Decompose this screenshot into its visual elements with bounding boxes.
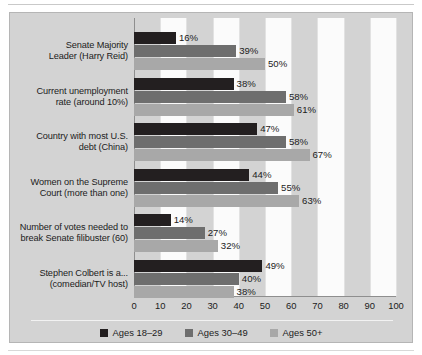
category-group: Country with most U.S.debt (China)47%58%… (10, 123, 412, 161)
category-label-line: Senate Majority (0, 40, 128, 51)
category-label-line: debt (China) (0, 142, 128, 153)
category-label-line: Country with most U.S. (0, 131, 128, 142)
category-label-line: break Senate filibuster (60) (0, 233, 128, 244)
bar (134, 32, 176, 44)
category-label: Senate MajorityLeader (Harry Reid) (0, 40, 128, 62)
bar-value-label: 27% (208, 227, 227, 239)
category-label: Country with most U.S.debt (China) (0, 131, 128, 153)
bar-value-label: 58% (289, 136, 308, 148)
bar (134, 91, 286, 103)
category-label-line: (comedian/TV host) (0, 279, 128, 290)
legend-label: Ages 30–49 (198, 327, 248, 338)
bar (134, 214, 171, 226)
bar (134, 182, 278, 194)
category-label-line: Number of votes needed to (0, 222, 128, 233)
bar-value-label: 40% (242, 273, 261, 285)
category-label-line: Women on the Supreme (0, 177, 128, 188)
legend-swatch-icon (100, 329, 108, 337)
category-group: Women on the SupremeCourt (more than one… (10, 169, 412, 207)
bar-value-label: 67% (313, 149, 332, 161)
bar (134, 195, 299, 207)
legend-item: Ages 50+ (270, 327, 323, 338)
bar-chart-figure: Senate MajorityLeader (Harry Reid)16%39%… (0, 0, 422, 355)
legend-divider (31, 320, 393, 321)
legend-label: Ages 18–29 (113, 327, 163, 338)
bar-value-label: 14% (174, 214, 193, 226)
x-tick-label: 70 (312, 300, 322, 311)
category-group: Number of votes needed tobreak Senate fi… (10, 214, 412, 252)
legend-item: Ages 18–29 (100, 327, 163, 338)
bar-value-label: 38% (237, 286, 256, 298)
category-label: Stephen Colbert is a...(comedian/TV host… (0, 268, 128, 290)
category-label-line: rate (around 10%) (0, 97, 128, 108)
bar-value-label: 58% (289, 91, 308, 103)
category-group: Senate MajorityLeader (Harry Reid)16%39%… (10, 32, 412, 70)
legend-label: Ages 50+ (283, 327, 323, 338)
bar (134, 273, 239, 285)
bar-value-label: 32% (221, 240, 240, 252)
x-tick-label: 10 (155, 300, 165, 311)
category-label-line: Court (more than one) (0, 188, 128, 199)
bar (134, 58, 265, 70)
bar (134, 149, 310, 161)
top-divider (8, 4, 414, 5)
bar (134, 78, 234, 90)
category-label-line: Current unemployment (0, 86, 128, 97)
category-label-line: Leader (Harry Reid) (0, 51, 128, 62)
x-tick-label: 50 (260, 300, 270, 311)
bar (134, 227, 205, 239)
category-label-line: Stephen Colbert is a... (0, 268, 128, 279)
chart-panel: Senate MajorityLeader (Harry Reid)16%39%… (9, 12, 413, 343)
bar-value-label: 63% (302, 195, 321, 207)
category-label: Women on the SupremeCourt (more than one… (0, 177, 128, 199)
bar (134, 123, 257, 135)
bar (134, 286, 234, 298)
bar (134, 45, 236, 57)
bottom-divider (8, 350, 414, 351)
bar-value-label: 39% (239, 45, 258, 57)
x-tick-label: 90 (365, 300, 375, 311)
bar (134, 240, 218, 252)
chart-legend: Ages 18–29Ages 30–49Ages 50+ (10, 327, 412, 338)
bar-value-label: 44% (252, 169, 271, 181)
legend-swatch-icon (270, 329, 278, 337)
x-tick-label: 80 (338, 300, 348, 311)
bar (134, 136, 286, 148)
x-tick-label: 0 (131, 300, 136, 311)
category-group: Stephen Colbert is a...(comedian/TV host… (10, 260, 412, 298)
category-label: Current unemploymentrate (around 10%) (0, 86, 128, 108)
bar-value-label: 47% (260, 123, 279, 135)
bar-value-label: 49% (265, 260, 284, 272)
x-tick-label: 60 (286, 300, 296, 311)
bar-value-label: 38% (237, 78, 256, 90)
category-label: Number of votes needed tobreak Senate fi… (0, 222, 128, 244)
category-group: Current unemploymentrate (around 10%)38%… (10, 78, 412, 116)
x-tick-label: 30 (207, 300, 217, 311)
x-tick-label: 40 (234, 300, 244, 311)
bar-value-label: 16% (179, 32, 198, 44)
bar-value-label: 50% (268, 58, 287, 70)
bar (134, 260, 262, 272)
x-tick-label: 100 (388, 300, 404, 311)
bar-value-label: 55% (281, 182, 300, 194)
legend-swatch-icon (185, 329, 193, 337)
bar-value-label: 61% (297, 104, 316, 116)
bar (134, 104, 294, 116)
legend-item: Ages 30–49 (185, 327, 248, 338)
bar (134, 169, 249, 181)
x-tick-label: 20 (181, 300, 191, 311)
